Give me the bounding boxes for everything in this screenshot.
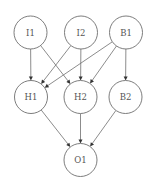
arrowhead-icon (66, 80, 70, 84)
node-b1: B1 (110, 16, 143, 49)
edge-i1-h1 (29, 49, 33, 81)
arrowhead-icon (90, 142, 94, 146)
node-b2: B2 (109, 81, 142, 114)
edge-h1-o1 (41, 110, 70, 147)
arrowhead-icon (41, 80, 45, 84)
edge-line (92, 110, 116, 144)
arrowhead-icon (79, 76, 83, 80)
edge-line (92, 46, 117, 81)
arrowhead-icon (79, 140, 83, 144)
node-label: H1 (25, 92, 38, 102)
node-label: B2 (120, 92, 132, 102)
node-label: B1 (120, 28, 132, 38)
edge-b1-b2 (124, 49, 128, 81)
edge-b1-h2 (90, 46, 116, 84)
nodes: I1I2B1H1H2B2O1 (14, 16, 143, 177)
node-label: O1 (74, 155, 86, 165)
edge-i2-h2 (79, 49, 83, 81)
node-h2: H2 (64, 81, 97, 114)
arrowhead-icon (124, 76, 128, 80)
edge-line (41, 110, 68, 145)
neural-network-diagram: I1I2B1H1H2B2O1 (0, 0, 150, 182)
node-o1: O1 (64, 144, 97, 177)
arrowhead-icon (45, 84, 49, 88)
node-i2: I2 (65, 16, 98, 49)
edge-h2-o1 (79, 114, 83, 144)
arrowhead-icon (66, 143, 70, 147)
edge-b2-o1 (90, 110, 116, 146)
node-label: H2 (74, 92, 87, 102)
node-label: I2 (77, 28, 86, 38)
node-label: I1 (26, 28, 35, 38)
node-i1: I1 (14, 16, 47, 49)
edge-line (41, 46, 69, 82)
node-h1: H1 (15, 81, 48, 114)
arrowhead-icon (29, 76, 33, 80)
edge-line (43, 46, 71, 82)
arrowhead-icon (90, 79, 94, 83)
